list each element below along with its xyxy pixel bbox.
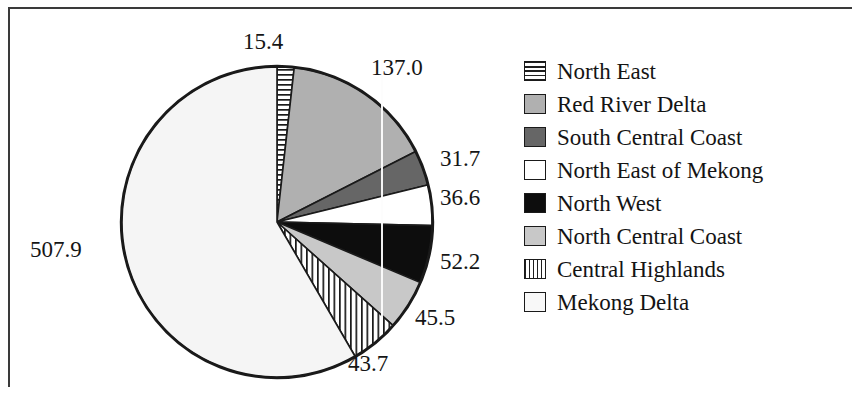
pie-chart-figure: 15.4 137.0 31.7 36.6 52.2 45.5 43.7 507.… — [0, 0, 852, 400]
legend-item-north-east[interactable]: North East — [524, 57, 763, 85]
legend-item-label: South Central Coast — [557, 126, 742, 149]
pie-chart-plot-area — [119, 64, 435, 380]
value-label-north-west: 52.2 — [440, 250, 480, 273]
legend-swatch-icon — [524, 193, 546, 213]
value-label-central-highlands: 43.7 — [348, 352, 388, 375]
legend-swatch-icon — [524, 226, 546, 246]
legend-item-label: North East of Mekong — [557, 159, 763, 182]
legend-swatch-icon — [524, 160, 546, 180]
legend-swatch-icon — [524, 127, 546, 147]
legend-item-label: North East — [557, 60, 656, 83]
value-label-north-east: 15.4 — [243, 30, 283, 53]
legend-item-north-central-coast[interactable]: North Central Coast — [524, 222, 763, 250]
legend-swatch-icon — [524, 94, 546, 114]
legend-item-label: North West — [557, 192, 661, 215]
value-label-mekong-delta: 507.9 — [30, 238, 82, 261]
frame-left-border — [8, 7, 10, 387]
scan-artifact-line — [381, 60, 383, 320]
legend: North EastRed River DeltaSouth Central C… — [524, 57, 763, 316]
legend-item-north-west[interactable]: North West — [524, 189, 763, 217]
legend-item-label: Red River Delta — [557, 93, 706, 116]
legend-item-label: North Central Coast — [557, 225, 742, 248]
legend-swatch-icon — [524, 259, 546, 279]
value-label-north-central-coast: 45.5 — [415, 306, 455, 329]
legend-item-south-central-coast[interactable]: South Central Coast — [524, 123, 763, 151]
legend-swatch-icon — [524, 292, 546, 312]
pie-chart-svg — [119, 64, 435, 380]
legend-item-red-river-delta[interactable]: Red River Delta — [524, 90, 763, 118]
legend-item-label: Central Highlands — [557, 258, 725, 281]
value-label-north-east-of-mekong: 36.6 — [440, 186, 480, 209]
legend-item-central-highlands[interactable]: Central Highlands — [524, 255, 763, 283]
legend-swatch-icon — [524, 61, 546, 81]
value-label-south-central-coast: 31.7 — [440, 147, 480, 170]
legend-item-north-east-of-mekong[interactable]: North East of Mekong — [524, 156, 763, 184]
frame-top-border — [8, 7, 852, 9]
legend-item-label: Mekong Delta — [557, 291, 689, 314]
value-label-red-river-delta: 137.0 — [371, 56, 423, 79]
legend-item-mekong-delta[interactable]: Mekong Delta — [524, 288, 763, 316]
